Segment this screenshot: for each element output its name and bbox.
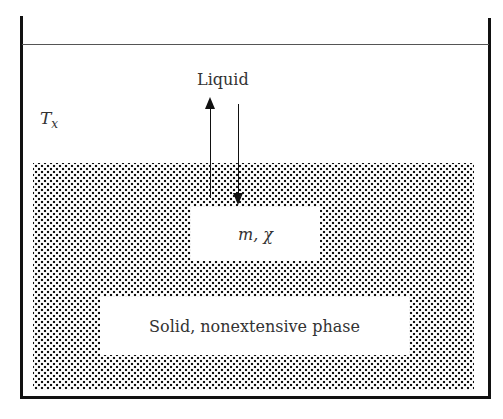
temperature-subscript: x [51,117,58,131]
solid-label: Solid, nonextensive phase [149,317,360,336]
temperature-label: Tx [40,108,58,131]
temperature-symbol: T [40,108,51,128]
solid-phase-box: Solid, nonextensive phase [100,297,409,355]
right-wall [488,18,491,399]
arrow-up-head [205,97,215,109]
inner-subsystem-box: m, χ [191,207,320,261]
arrow-down-shaft [238,104,239,194]
arrow-up-shaft [210,108,211,198]
bottom-wall [20,396,491,399]
left-wall [20,16,23,399]
liquid-surface-line [22,44,489,45]
inner-label: m, χ [238,225,273,244]
arrow-down-head [233,193,243,205]
solid-phase-region [33,163,474,390]
liquid-label: Liquid [197,70,249,89]
